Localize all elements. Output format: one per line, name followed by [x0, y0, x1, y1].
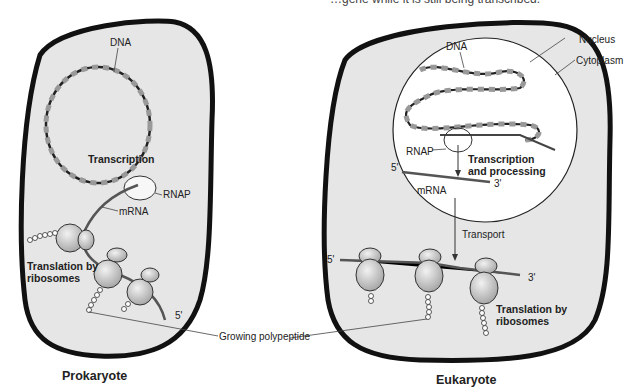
prok-translation-label: Translation by ribosomes [27, 260, 98, 284]
prok-translation-line1: Translation by [27, 260, 98, 272]
euk-five-prime-top: 5' [391, 163, 398, 173]
euk-translation-line2: ribosomes [496, 315, 567, 327]
euk-three-prime-top: 3' [494, 179, 501, 189]
prok-transcription-label: Transcription [88, 153, 155, 165]
euk-three-prime-bottom: 3' [528, 273, 535, 283]
eukaryote-title: Eukaryote [436, 373, 496, 387]
diagram-canvas [0, 0, 634, 391]
euk-transcription-label: Transcription and processing [468, 153, 546, 177]
euk-mrna-label: mRNA [417, 186, 446, 196]
cytoplasm-label: Cytoplasm [576, 56, 623, 66]
euk-rnap-label: RNAP [406, 147, 434, 157]
growing-polypeptide-label: Growing polypeptide [219, 332, 310, 342]
nucleus-label: Nucleus [579, 35, 615, 45]
euk-transcription-line1: Transcription [468, 153, 546, 165]
prok-five-prime-label: 5' [175, 311, 182, 321]
prokaryote-title: Prokaryote [62, 369, 127, 383]
euk-dna-label: DNA [446, 42, 467, 52]
transport-label: Transport [462, 230, 504, 240]
prok-rnap-label: RNAP [163, 190, 191, 200]
euk-transcription-line2: and processing [468, 165, 546, 177]
prok-mrna-label: mRNA [119, 207, 148, 217]
prok-dna-label: DNA [110, 38, 131, 48]
euk-translation-line1: Translation by [496, 303, 567, 315]
euk-five-prime-bottom: 5' [327, 255, 334, 265]
euk-translation-label: Translation by ribosomes [496, 303, 567, 327]
prok-translation-line2: ribosomes [27, 272, 98, 284]
